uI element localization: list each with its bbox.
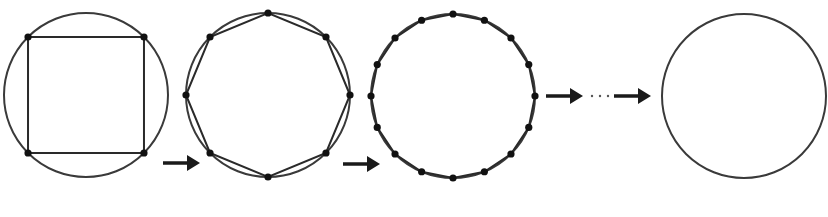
arrows-group <box>163 88 651 172</box>
vertex-dot <box>374 124 381 131</box>
polygon-to-circle-diagram <box>0 0 828 217</box>
arrow-head <box>187 155 200 171</box>
vertex-dot <box>140 33 147 40</box>
arrow-head <box>570 88 583 104</box>
vertex-dot <box>24 149 31 156</box>
vertex-dot <box>507 34 514 41</box>
stage-3-hexadecagon <box>367 10 538 181</box>
vertex-dot <box>264 173 271 180</box>
ellipsis <box>591 95 609 97</box>
vertex-dot <box>449 10 456 17</box>
vertex-dot <box>418 168 425 175</box>
vertex-dot <box>481 17 488 24</box>
stages-group <box>4 9 826 181</box>
arrow-head <box>367 156 380 172</box>
ellipsis-dot <box>599 95 601 97</box>
vertex-dot <box>264 9 271 16</box>
vertex-dot <box>206 149 213 156</box>
vertex-dot <box>374 61 381 68</box>
vertex-dot <box>140 149 147 156</box>
vertex-dot <box>525 61 532 68</box>
inscribed-square <box>28 37 144 153</box>
vertex-dot <box>507 150 514 157</box>
stage-2-octagon <box>182 9 353 180</box>
vertex-dot <box>391 34 398 41</box>
ellipsis-dot <box>591 95 593 97</box>
vertex-dot <box>367 92 374 99</box>
vertex-dot <box>24 33 31 40</box>
vertex-dot <box>182 91 189 98</box>
stage-4-circle <box>662 14 826 178</box>
stage-1-square <box>4 13 168 177</box>
arrow-3-right-arrow-icon <box>546 88 583 104</box>
vertex-dot <box>391 150 398 157</box>
arrow-4-right-arrow-icon <box>614 88 651 104</box>
vertex-dot <box>449 174 456 181</box>
vertex-dot <box>531 92 538 99</box>
circumscribed-circle <box>662 14 826 178</box>
vertex-dot <box>346 91 353 98</box>
ellipsis-dot <box>607 95 609 97</box>
vertex-dot <box>525 124 532 131</box>
vertex-dot <box>481 168 488 175</box>
arrow-head <box>638 88 651 104</box>
arrow-2-right-arrow-icon <box>343 156 380 172</box>
vertex-dot <box>206 33 213 40</box>
vertex-dot <box>418 17 425 24</box>
arrow-1-right-arrow-icon <box>163 155 200 171</box>
vertex-dot <box>322 149 329 156</box>
vertex-dot <box>322 33 329 40</box>
